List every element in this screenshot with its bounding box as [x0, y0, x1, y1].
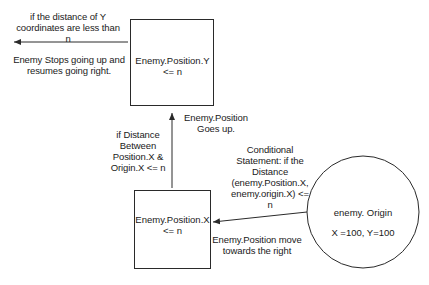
exit-action-label: Enemy Stops going up and resumes going r…: [10, 54, 128, 76]
right-action-label: Enemy.Position move towards the right: [211, 234, 303, 256]
position-x-box-label: Enemy.Position.X <= n: [134, 214, 211, 236]
origin-to-x-arrow: [213, 212, 307, 222]
origin-circle-label: enemy. Origin X =100, Y=100: [310, 207, 416, 238]
up-action-label: Enemy.Position Goes up.: [180, 112, 252, 134]
position-y-box-label: Enemy.Position.Y <= n: [131, 55, 214, 77]
up-condition-label: if Distance Between Position.X & Origin.…: [108, 129, 168, 173]
origin-condition-label: Conditional Statement: if the Distance (…: [230, 144, 310, 210]
exit-condition-label: if the distance of Y coordinates are les…: [14, 11, 122, 44]
